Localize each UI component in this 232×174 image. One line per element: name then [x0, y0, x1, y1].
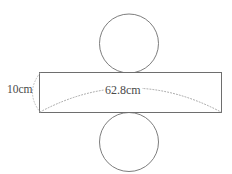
- bottom-base-circle: [100, 113, 159, 172]
- circumference-label: 62.8cm: [104, 84, 142, 96]
- top-base-circle: [100, 14, 159, 73]
- height-guide-arc: [33, 73, 41, 112]
- height-label: 10cm: [7, 84, 33, 96]
- cylinder-net-diagram: 10cm 62.8cm: [0, 0, 232, 174]
